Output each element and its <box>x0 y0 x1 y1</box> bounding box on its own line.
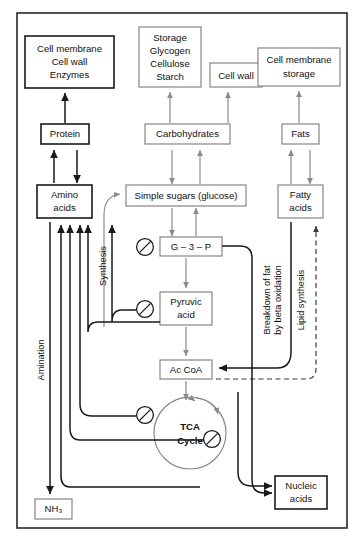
node-storage-group: Storage Glycogen Cellulose Starch <box>139 27 201 87</box>
node-label-line1: Carbohydrates <box>156 128 219 139</box>
node-label-line1: Nucleic <box>285 480 317 491</box>
node-label-line2: acids <box>290 493 313 504</box>
node-label-line1: Fatty <box>290 189 312 200</box>
node-label-line2: acids <box>289 202 312 213</box>
label-beta-oxidation-line2: by beta oxidation <box>273 265 283 334</box>
node-label-line1: Simple sugars (glucose) <box>135 190 238 201</box>
node-nucleic-acids: Nucleic acids <box>275 476 327 509</box>
edge-pyruvate-to-aminoacids <box>112 225 136 322</box>
node-label-line1: Ac CoA <box>170 364 203 375</box>
node-cell-membrane-wall-enzymes: Cell membrane Cell wall Enzymes <box>25 36 114 88</box>
node-label-line1: Pyruvic <box>170 296 202 307</box>
node-label-line1: G – 3 – P <box>171 241 212 252</box>
node-fats: Fats <box>282 124 319 144</box>
node-label-line1: Storage <box>153 32 187 43</box>
enzyme-block-icon-tca-right <box>204 431 221 448</box>
node-label-line2: acids <box>53 202 76 213</box>
node-label-line2: Cell wall <box>52 56 88 67</box>
node-label-line2: acid <box>177 309 195 320</box>
node-protein: Protein <box>41 124 89 144</box>
node-label-line1: Cell wall <box>218 70 254 81</box>
node-label-line1: Fats <box>291 128 310 139</box>
edge-tca-right-to-aminoacids <box>70 225 204 440</box>
enzyme-block-icon-g3p <box>137 239 154 256</box>
node-label-line1: Cell membrane <box>37 43 102 54</box>
node-cell-wall: Cell wall <box>210 63 262 87</box>
node-label-line1: Protein <box>50 128 80 139</box>
node-fatty-acids: Fatty acids <box>278 185 323 218</box>
enzyme-block-icon-pyruvate <box>137 301 154 318</box>
node-g3p: G – 3 – P <box>160 237 222 256</box>
node-ac-coa: Ac CoA <box>160 360 212 379</box>
tca-label-line1: TCA <box>180 421 200 432</box>
node-label-line2: storage <box>283 68 315 79</box>
node-label-line3: Cellulose <box>150 58 189 69</box>
label-synthesis: Synthesis <box>98 246 108 286</box>
node-label-line1: Amino <box>51 189 78 200</box>
node-label-line4: Starch <box>156 71 184 82</box>
edge-tca-lower-to-aminoacids <box>61 225 200 487</box>
node-pyruvic-acid: Pyruvic acid <box>160 292 212 325</box>
node-label-line1: Cell membrane <box>266 54 331 65</box>
enzyme-block-icon-tca-left <box>137 407 154 424</box>
node-simple-sugars: Simple sugars (glucose) <box>126 185 246 206</box>
node-carbohydrates: Carbohydrates <box>145 124 230 144</box>
node-label-line3: Enzymes <box>50 69 90 80</box>
edge-tca-to-nucleic-acids <box>238 392 272 486</box>
metabolism-diagram: Cell membrane Cell wall Enzymes Storage … <box>0 0 363 542</box>
label-amination: Amination <box>36 340 46 381</box>
node-cell-membrane-storage: Cell membrane storage <box>258 48 340 86</box>
node-ammonia: NH₃ <box>35 499 72 519</box>
node-amino-acids: Amino acids <box>37 185 92 218</box>
label-lipid-synthesis: Lipid synthesis <box>296 269 306 330</box>
node-label-line1: NH₃ <box>45 503 63 514</box>
node-label-line2: Glycogen <box>150 45 191 56</box>
label-beta-oxidation-line1: Breakdown of fat <box>262 265 272 334</box>
